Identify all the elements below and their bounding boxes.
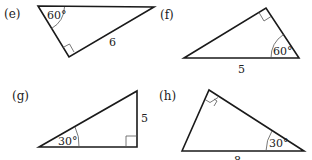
figure-label-g: (g) bbox=[12, 89, 29, 103]
triangles-diagram: (e) 60° 6 (f) 60° 5 (g) 30° 5 (h) 30° 8 bbox=[0, 0, 312, 160]
angle-label-e: 60° bbox=[47, 9, 67, 22]
triangle-g-shape bbox=[39, 91, 137, 147]
right-angle-mark-g bbox=[126, 136, 137, 147]
angle-label-f: 60° bbox=[273, 45, 293, 58]
triangle-f: (f) 60° 5 bbox=[160, 8, 299, 76]
side-label-f: 5 bbox=[238, 63, 245, 76]
triangle-e: (e) 60° 6 bbox=[4, 6, 154, 57]
side-label-e: 6 bbox=[109, 36, 116, 49]
figure-label-h: (h) bbox=[159, 89, 176, 103]
side-label-h: 8 bbox=[234, 154, 241, 160]
figure-label-f: (f) bbox=[160, 8, 174, 22]
figure-label-e: (e) bbox=[4, 7, 20, 21]
triangle-g: (g) 30° 5 bbox=[12, 89, 148, 148]
angle-label-h: 30° bbox=[269, 137, 289, 150]
side-label-g: 5 bbox=[141, 112, 148, 125]
triangle-h: (h) 30° 8 bbox=[159, 89, 304, 160]
angle-label-g: 30° bbox=[58, 135, 78, 148]
